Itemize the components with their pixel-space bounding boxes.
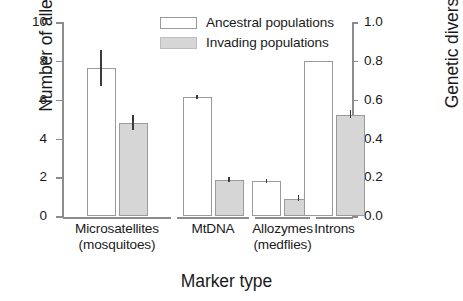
x-axis-baseline-segment — [255, 217, 310, 219]
bar-ancestral — [252, 181, 281, 216]
x-axis-group-label-line: (mosquitoes) — [47, 237, 187, 253]
x-axis-title: Marker type — [0, 271, 453, 292]
y-axis-left-line — [62, 22, 64, 218]
x-axis-group-label-line: (medflies) — [213, 237, 353, 253]
x-axis-group-label: Introns — [265, 221, 405, 237]
y-axis-left-tick — [56, 216, 62, 218]
y-axis-left-tick — [56, 61, 62, 63]
x-axis-baseline-segment — [63, 217, 171, 219]
y-axis-left-tick-label: 2 — [0, 170, 47, 184]
y-axis-right-tick — [352, 22, 358, 24]
y-axis-right-tick-label: 0.4 — [364, 132, 424, 146]
y-axis-left-tick-label: 6 — [0, 93, 47, 107]
bar-invading — [336, 115, 365, 216]
bar-invading — [119, 123, 148, 216]
error-bar — [100, 50, 102, 86]
y-axis-right-tick — [352, 100, 358, 102]
y-axis-left-tick — [56, 177, 62, 179]
error-bar — [228, 177, 230, 182]
error-bar — [196, 95, 198, 98]
x-axis-baseline-segment — [316, 217, 353, 219]
y-axis-right-tick-label: 0.8 — [364, 54, 424, 68]
error-bar — [350, 110, 352, 118]
y-axis-left-tick — [56, 100, 62, 102]
y-axis-right-tick — [352, 216, 358, 218]
x-axis-baseline-segment — [177, 217, 249, 219]
error-bar — [266, 179, 268, 183]
y-axis-left-tick-label: 4 — [0, 132, 47, 146]
error-bar — [132, 115, 134, 130]
y-axis-right-tick-label: 0.6 — [364, 93, 424, 107]
y-axis-left-tick-label: 8 — [0, 54, 47, 68]
bar-ancestral — [183, 97, 212, 216]
y-axis-left-tick — [56, 139, 62, 141]
y-axis-left-tick-label: 0 — [0, 209, 47, 223]
y-axis-right-tick — [352, 61, 358, 63]
y-axis-left-tick-label: 10 — [0, 15, 47, 29]
y-axis-right-title: Genetic diversity — [442, 0, 463, 135]
bar-ancestral — [87, 68, 116, 217]
bar-ancestral — [304, 61, 333, 216]
x-axis-group-label-line: Introns — [265, 221, 405, 237]
y-axis-right-tick-label: 0.2 — [364, 170, 424, 184]
plot-area: 02468100.00.20.40.60.81.0 — [63, 22, 353, 218]
error-bar — [298, 195, 300, 201]
bar-invading — [215, 180, 244, 217]
y-axis-right-tick-label: 1.0 — [364, 15, 424, 29]
y-axis-left-tick — [56, 22, 62, 24]
